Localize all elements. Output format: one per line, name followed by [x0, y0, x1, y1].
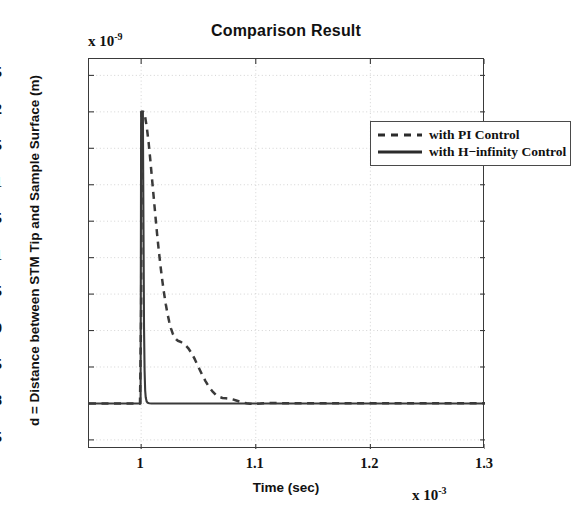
y-tick-label: 0.8: [0, 392, 2, 409]
legend-line-sample: [376, 146, 424, 158]
axis-ticks: [89, 59, 485, 449]
legend-box: with PI Controlwith H−infinity Control: [370, 121, 571, 166]
y-tick-label: 0.75: [0, 429, 2, 446]
y-tick-label: 1.15: [0, 137, 2, 154]
x-tick-label: 1: [105, 455, 175, 472]
plot-canvas: [89, 59, 485, 449]
y-tick-label: 1.25: [0, 64, 2, 81]
legend-line-sample: [376, 129, 424, 141]
x-axis-exponent: x 10-3: [412, 485, 447, 504]
chart-title: Comparison Result: [88, 22, 484, 40]
y-tick-label: 1.1: [0, 174, 2, 191]
legend-item: with H−infinity Control: [376, 143, 565, 160]
y-tick-label: 0.85: [0, 356, 2, 373]
x-tick-label: 1.2: [334, 455, 404, 472]
x-exponent-base: x 10: [412, 487, 438, 503]
y-axis-exponent: x 10-9: [88, 31, 123, 50]
gridlines: [89, 59, 485, 449]
y-tick-label: 0.95: [0, 283, 2, 300]
y-exponent-base: x 10: [88, 33, 114, 49]
legend-label: with PI Control: [429, 128, 520, 142]
y-tick-label: 0.9: [0, 320, 2, 337]
x-tick-label: 1.1: [220, 455, 290, 472]
plot-area: with PI Controlwith H−infinity Control: [88, 58, 484, 448]
y-axis-label: d = Distance between STM Tip and Sample …: [27, 41, 42, 461]
legend-label: with H−infinity Control: [429, 145, 566, 159]
x-axis-label: Time (sec): [186, 480, 386, 495]
x-exponent-power: -3: [438, 485, 446, 496]
y-tick-label: 1.05: [0, 210, 2, 227]
legend-item: with PI Control: [376, 126, 565, 143]
y-exponent-power: -9: [114, 31, 122, 42]
x-tick-label: 1.3: [449, 455, 519, 472]
y-tick-label: 1: [0, 247, 2, 264]
y-tick-label: 1.2: [0, 101, 2, 118]
